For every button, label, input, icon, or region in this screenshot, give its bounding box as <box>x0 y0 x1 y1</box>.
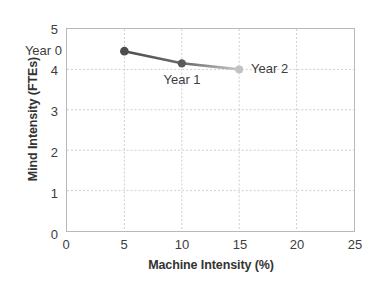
y-tick-label-4: 4 <box>32 64 58 77</box>
data-point-year-2 <box>235 65 243 73</box>
y-tick-label-2: 2 <box>32 146 58 159</box>
x-axis-title: Machine Intensity (%) <box>66 258 356 272</box>
data-point-year-0 <box>120 47 129 56</box>
data-point-year-1 <box>178 59 186 67</box>
x-tick-label-0: 0 <box>51 238 81 251</box>
y-tick-label-5: 5 <box>32 23 58 36</box>
x-tick-label-25: 25 <box>340 238 370 251</box>
horizontal-gridlines <box>67 69 354 190</box>
x-tick-label-5: 5 <box>109 238 139 251</box>
point-label-year-1: Year 1 <box>163 73 200 86</box>
y-tick-label-1: 1 <box>32 187 58 200</box>
plot-area: Year 0 Year 1 Year 2 <box>66 28 355 232</box>
vertical-gridlines <box>124 29 296 231</box>
chart-container: Mind Intensity (FTEs) Machine Intensity … <box>0 0 380 284</box>
point-label-year-0: Year 0 <box>25 44 62 57</box>
x-tick-label-10: 10 <box>167 238 197 251</box>
x-tick-label-15: 15 <box>225 238 255 251</box>
x-tick-label-20: 20 <box>282 238 312 251</box>
point-label-year-2: Year 2 <box>251 62 288 75</box>
plot-svg <box>67 29 354 231</box>
y-tick-label-3: 3 <box>32 105 58 118</box>
